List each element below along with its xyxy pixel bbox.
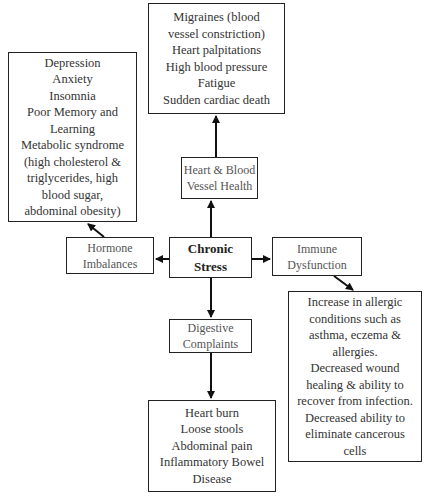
effect-line: cells: [344, 443, 367, 460]
immune-effects-box: Increase in allergic conditions such as …: [288, 291, 422, 462]
category-label: Complaints: [183, 336, 238, 352]
effect-line: Heart burn: [185, 405, 239, 422]
effect-line: Fatigue: [198, 75, 236, 92]
heart-effects-box: Migraines (blood vessel constriction) He…: [148, 3, 285, 114]
immune-category-box: Immune Dysfunction: [272, 237, 362, 276]
effect-line: High blood pressure: [166, 59, 267, 76]
effect-line: vessel constriction): [168, 26, 265, 43]
category-label: Hormone: [87, 240, 132, 256]
effect-line: Increase in allergic: [308, 294, 403, 311]
arrow-hormone-to-effects: [88, 224, 104, 237]
effect-line: Migraines (blood: [173, 9, 259, 26]
category-label: Heart & Blood: [184, 162, 255, 178]
category-label: Vessel Health: [187, 178, 253, 194]
category-label: Digestive: [188, 320, 234, 336]
hormone-effects-box: Depression Anxiety Insomnia Poor Memory …: [8, 52, 137, 222]
heart-category-box: Heart & Blood Vessel Health: [181, 157, 258, 199]
effect-line: recover from infection.: [297, 393, 413, 410]
effect-line: Depression: [44, 55, 100, 72]
digestive-category-box: Digestive Complaints: [169, 319, 252, 353]
effect-line: Insomnia: [49, 88, 96, 105]
center-label: Stress: [194, 258, 227, 276]
effect-line: Decreased ability to: [305, 410, 405, 427]
category-label: Immune: [297, 241, 337, 257]
arrow-immune-to-effects: [334, 276, 353, 290]
effect-line: healing & ability to: [306, 377, 404, 394]
effect-line: blood sugar,: [42, 187, 103, 204]
effect-line: Metabolic syndrome: [21, 137, 124, 154]
hormone-category-box: Hormone Imbalances: [66, 237, 154, 274]
effect-line: triglycerides, high: [27, 170, 118, 187]
center-label: Chronic: [188, 240, 233, 258]
effect-line: conditions such as: [309, 311, 401, 328]
effect-line: Inflammatory Bowel: [160, 454, 265, 471]
effect-line: allergies.: [332, 344, 377, 361]
category-label: Dysfunction: [287, 257, 346, 273]
effect-line: Disease: [193, 471, 232, 488]
effect-line: Learning: [50, 121, 95, 138]
effect-line: Decreased wound: [310, 360, 399, 377]
effect-line: abdominal obesity): [24, 203, 120, 220]
effect-line: Loose stools: [181, 421, 244, 438]
effect-line: Abdominal pain: [172, 438, 253, 455]
chronic-stress-box: Chronic Stress: [169, 237, 252, 278]
digestive-effects-box: Heart burn Loose stools Abdominal pain I…: [148, 400, 276, 492]
effect-line: Poor Memory and: [27, 104, 118, 121]
effect-line: eliminate cancerous: [305, 426, 405, 443]
effect-line: Anxiety: [52, 71, 92, 88]
effect-line: Heart palpitations: [172, 42, 261, 59]
effect-line: Sudden cardiac death: [163, 92, 270, 109]
category-label: Imbalances: [83, 256, 138, 272]
effect-line: (high cholesterol &: [24, 154, 121, 171]
effect-line: asthma, eczema &: [309, 327, 401, 344]
